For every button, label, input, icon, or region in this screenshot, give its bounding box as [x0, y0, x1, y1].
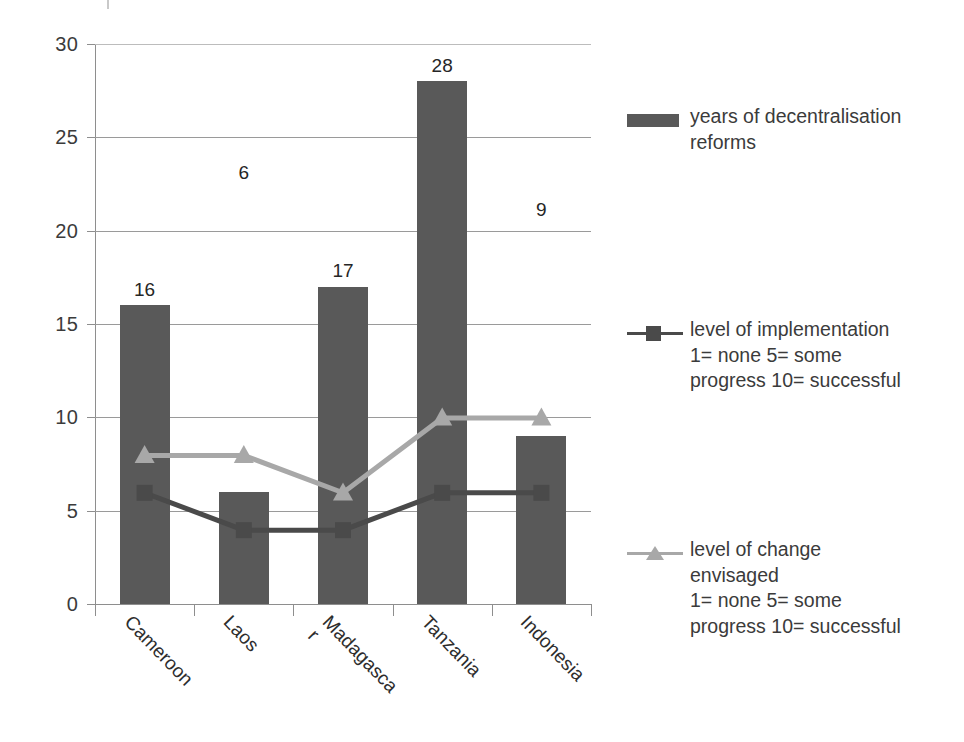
- line-series-layer: [95, 44, 592, 605]
- legend-label-line: 1= none 5= some: [690, 343, 964, 369]
- x-axis-label-indonesia: Indonesia: [517, 612, 589, 685]
- x-label-slot: Cameroon: [95, 606, 194, 736]
- cropped-title-mark: [107, 0, 109, 9]
- chart-legend: years of decentralisation reforms level …: [624, 0, 964, 742]
- legend-label-line: level of implementation: [690, 317, 964, 343]
- y-axis-tick: [87, 44, 95, 45]
- legend-key-bar: [627, 108, 683, 128]
- square-marker-icon: [646, 326, 661, 341]
- series-change-envisaged-line: [145, 418, 542, 493]
- y-axis-tick: [87, 137, 95, 138]
- legend-label-line: envisaged: [690, 563, 964, 589]
- y-axis-tick: [87, 324, 95, 325]
- y-axis-label: 30: [28, 33, 78, 56]
- y-axis-label: 15: [28, 313, 78, 336]
- x-axis-label-text: Tanzania: [418, 611, 486, 680]
- legend-label-line: years of decentralisation: [690, 104, 964, 130]
- x-label-slot: Madagasca r: [293, 606, 392, 736]
- triangle-marker-icon: [646, 546, 664, 560]
- y-axis-tick: [87, 231, 95, 232]
- legend-item-level-of-change-envisaged[interactable]: level of change envisaged 1= none 5= som…: [624, 537, 964, 639]
- x-label-slot: Indonesia: [492, 606, 591, 736]
- square-marker-icon: [533, 485, 549, 501]
- y-axis-label: 25: [28, 126, 78, 149]
- y-axis-label: 5: [28, 500, 78, 523]
- y-axis-tick: [87, 417, 95, 418]
- legend-item-level-of-implementation[interactable]: level of implementation 1= none 5= some …: [624, 317, 964, 394]
- y-axis-tick: [87, 604, 95, 605]
- x-axis-label-madagascar: Madagasca r: [304, 612, 401, 710]
- legend-key-line-square: [627, 321, 683, 341]
- square-marker-icon: [335, 522, 351, 538]
- x-label-slot: Tanzania: [393, 606, 492, 736]
- legend-key-line-triangle: [627, 541, 683, 561]
- square-marker-icon: [434, 485, 450, 501]
- legend-label: level of change envisaged 1= none 5= som…: [690, 537, 964, 639]
- y-axis-labels: 30 25 20 15 10 5 0: [0, 0, 78, 742]
- legend-label: level of implementation 1= none 5= some …: [690, 317, 964, 394]
- y-axis-tick: [87, 511, 95, 512]
- x-axis-category-labels: Cameroon Laos Madagasca r Tanzania Indon…: [95, 606, 592, 742]
- x-axis-label-text: Cameroon: [120, 611, 197, 689]
- x-axis-label-text: Indonesia: [517, 611, 589, 685]
- y-axis-label: 10: [28, 406, 78, 429]
- legend-label-line: reforms: [690, 130, 964, 156]
- square-marker-icon: [236, 522, 252, 538]
- x-axis-label-laos: Laos: [219, 612, 262, 655]
- legend-item-years-of-decentralisation-reforms[interactable]: years of decentralisation reforms: [624, 104, 964, 155]
- x-axis-label-cameroon: Cameroon: [120, 612, 196, 690]
- legend-label: years of decentralisation reforms: [690, 104, 964, 155]
- bar-swatch-icon: [627, 114, 679, 127]
- chart-container: 30 25 20 15 10 5 0 16: [0, 0, 620, 742]
- x-axis-label-tanzania: Tanzania: [418, 612, 485, 681]
- legend-label-line: level of change: [690, 537, 964, 563]
- legend-label-line: progress 10= successful: [690, 368, 964, 394]
- y-axis-label: 0: [28, 593, 78, 616]
- legend-label-line: progress 10= successful: [690, 614, 964, 640]
- legend-label-line: 1= none 5= some: [690, 588, 964, 614]
- square-marker-icon: [137, 485, 153, 501]
- y-axis-label: 20: [28, 220, 78, 243]
- x-label-slot: Laos: [194, 606, 293, 736]
- x-axis-label-text: Laos: [219, 611, 263, 655]
